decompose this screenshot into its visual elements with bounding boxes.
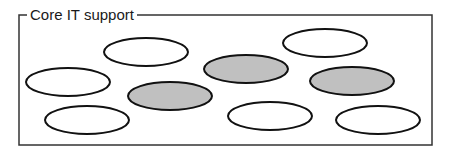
ellipse-node-shaded: [128, 82, 212, 110]
ellipse-node: [228, 102, 312, 130]
ellipse-node: [104, 38, 188, 66]
diagram-canvas: [0, 0, 451, 158]
group-label: Core IT support: [27, 7, 137, 23]
ellipse-node: [283, 29, 367, 57]
ellipse-node: [26, 68, 110, 96]
ellipse-group: [26, 29, 420, 134]
ellipse-node-shaded: [204, 55, 288, 83]
ellipse-node: [336, 106, 420, 134]
ellipse-node-shaded: [310, 67, 394, 95]
ellipse-node: [45, 106, 129, 134]
